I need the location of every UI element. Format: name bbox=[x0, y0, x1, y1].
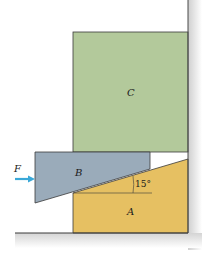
angle-label: 15° bbox=[135, 179, 151, 189]
block-c-label: C bbox=[127, 87, 135, 98]
diagram-svg: F C B A 15° bbox=[0, 0, 206, 255]
block-a-label: A bbox=[126, 206, 134, 217]
ground-shadow bbox=[15, 233, 202, 248]
block-b-label: B bbox=[74, 167, 82, 178]
wedge-diagram: F C B A 15° bbox=[0, 0, 206, 255]
wall-shadow bbox=[188, 0, 202, 250]
force-label: F bbox=[13, 163, 22, 174]
force-arrow-icon bbox=[15, 176, 35, 183]
